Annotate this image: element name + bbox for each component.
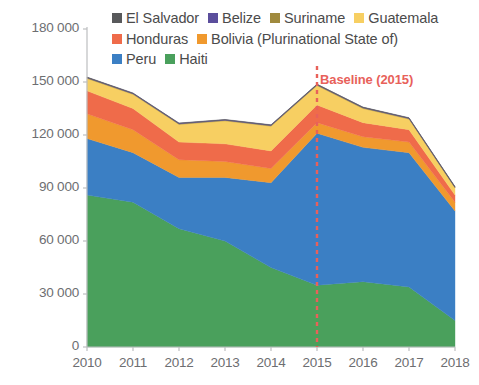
x-axis-tick-label: 2010 (62, 355, 112, 370)
y-axis-tick-label: 0 (11, 338, 79, 353)
y-axis-tick-label: 60 000 (11, 232, 79, 247)
y-axis-tick-label: 120 000 (11, 126, 79, 141)
plot-area: 180 000150 000120 00090 00060 00030 0000… (0, 0, 479, 385)
x-axis-tick-label: 2018 (430, 355, 479, 370)
baseline-annotation-label: Baseline (2015) (320, 72, 413, 87)
x-axis-tick-label: 2012 (154, 355, 204, 370)
y-axis-tick-label: 150 000 (11, 73, 79, 88)
y-axis-tick-label: 90 000 (11, 179, 79, 194)
x-axis-tick-label: 2014 (246, 355, 296, 370)
x-axis-tick-label: 2013 (200, 355, 250, 370)
x-axis-tick-label: 2015 (292, 355, 342, 370)
x-axis-tick-label: 2011 (108, 355, 158, 370)
y-axis-tick-label: 30 000 (11, 285, 79, 300)
stacked-area-chart: El SalvadorBelizeSurinameGuatemalaHondur… (0, 0, 479, 385)
y-axis-tick-label: 180 000 (11, 20, 79, 35)
x-axis-tick-label: 2017 (384, 355, 434, 370)
x-axis-tick-label: 2016 (338, 355, 388, 370)
